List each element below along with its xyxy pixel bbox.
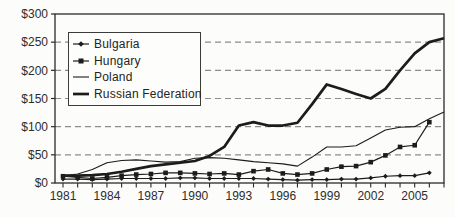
x-tick-label: 2005 — [401, 189, 428, 203]
series-marker — [163, 176, 168, 181]
x-tick-label: 1990 — [182, 189, 209, 203]
series-marker — [383, 153, 388, 158]
series-marker — [105, 175, 110, 180]
russian-federation-thick-line-icon — [72, 89, 94, 99]
x-tick-label: 1987 — [138, 189, 165, 203]
series-marker — [280, 177, 285, 182]
series-marker — [222, 171, 227, 176]
y-tick-label: $100 — [21, 120, 48, 134]
legend-label-poland: Poland — [94, 70, 133, 84]
series-marker — [207, 176, 212, 181]
y-tick-label: $200 — [21, 64, 48, 78]
series-marker — [354, 177, 359, 182]
x-tick-label: 1996 — [269, 189, 296, 203]
series-marker — [368, 160, 373, 165]
legend-label-bulgaria: Bulgaria — [94, 37, 140, 51]
x-tick-label: 2002 — [357, 189, 384, 203]
series-marker — [193, 171, 198, 176]
series-marker — [310, 171, 315, 176]
series-marker — [339, 177, 344, 182]
series-marker — [339, 164, 344, 169]
series-marker — [119, 173, 124, 178]
x-tick-label: 1999 — [313, 189, 340, 203]
series-marker — [383, 174, 388, 179]
series-marker — [368, 176, 373, 181]
y-tick-label: $50 — [28, 148, 48, 162]
hungary-square-marker-icon — [72, 56, 94, 66]
series-line-hungary — [63, 122, 429, 178]
series-marker — [324, 167, 329, 172]
series-marker — [295, 178, 300, 183]
series-marker — [149, 176, 154, 181]
legend-row-hungary: Hungary — [72, 53, 196, 70]
series-marker — [266, 177, 271, 182]
series-marker — [412, 143, 417, 148]
series-marker — [237, 172, 242, 177]
y-tick-label: $300 — [21, 7, 48, 21]
series-marker — [310, 177, 315, 182]
series-marker — [412, 173, 417, 178]
legend-label-russian-federation: Russian Federation — [94, 87, 202, 101]
poland-line-icon — [72, 72, 94, 82]
legend-row-russian-federation: Russian Federation — [72, 86, 196, 103]
series-marker — [134, 172, 139, 177]
series-marker — [178, 176, 183, 181]
x-tick-label: 1981 — [50, 189, 77, 203]
legend-row-bulgaria: Bulgaria — [72, 36, 196, 53]
series-marker — [207, 172, 212, 177]
series-marker — [178, 171, 183, 176]
bulgaria-diamond-marker-icon — [72, 39, 94, 49]
series-marker — [295, 172, 300, 177]
chart-legend: Bulgaria Hungary Poland — [68, 32, 201, 106]
legend-label-hungary: Hungary — [94, 54, 141, 68]
series-marker — [427, 170, 432, 175]
line-chart-figure: $0$50$100$150$200$250$300198119841987199… — [0, 0, 455, 217]
y-tick-label: $150 — [21, 92, 48, 106]
series-marker — [427, 120, 432, 125]
y-tick-label: $0 — [35, 176, 49, 190]
series-marker — [266, 167, 271, 172]
series-marker — [354, 164, 359, 169]
series-marker — [398, 145, 403, 150]
x-tick-label: 1984 — [94, 189, 121, 203]
series-marker — [251, 176, 256, 181]
series-marker — [149, 172, 154, 177]
y-tick-label: $250 — [21, 35, 48, 49]
x-tick-label: 1993 — [225, 189, 252, 203]
series-marker — [163, 171, 168, 176]
legend-row-poland: Poland — [72, 69, 196, 86]
series-marker — [251, 169, 256, 174]
series-marker — [281, 171, 286, 176]
series-marker — [398, 173, 403, 178]
series-marker — [90, 176, 95, 181]
series-marker — [192, 176, 197, 181]
series-marker — [324, 177, 329, 182]
series-marker — [222, 176, 227, 181]
